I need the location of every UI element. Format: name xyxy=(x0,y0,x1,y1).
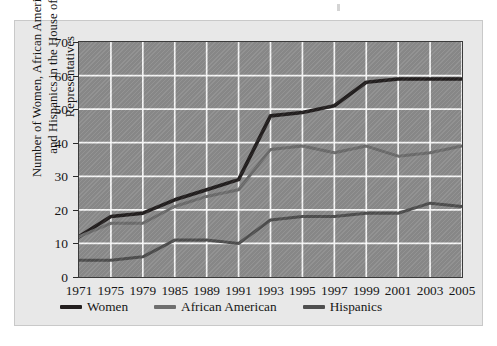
y-tick-label: 20 xyxy=(42,204,68,218)
legend-item: African American xyxy=(154,300,277,313)
legend-swatch-icon xyxy=(154,305,176,309)
legend-label: Women xyxy=(87,300,128,313)
legend-item: Hispanics xyxy=(303,300,382,313)
plot-area xyxy=(78,41,463,278)
y-tick-label: 30 xyxy=(42,170,68,184)
legend-swatch-icon xyxy=(60,305,82,309)
chart-legend: WomenAfrican AmericanHispanics xyxy=(60,300,382,313)
y-tick-label: 10 xyxy=(42,237,68,251)
legend-item: Women xyxy=(60,300,128,313)
legend-label: Hispanics xyxy=(330,300,382,313)
y-tick-label: 0 xyxy=(42,271,68,285)
chart-canvas xyxy=(79,42,462,277)
figure: Number of Women, African Americans and H… xyxy=(0,0,497,346)
y-tick-label: 50 xyxy=(42,103,68,117)
y-tick-label: 40 xyxy=(42,137,68,151)
legend-label: African American xyxy=(181,300,277,313)
y-tick-label: 70 xyxy=(42,36,68,50)
legend-swatch-icon xyxy=(303,305,325,309)
y-tick-label: 60 xyxy=(42,70,68,84)
x-tick-label: 2005 xyxy=(442,284,482,297)
